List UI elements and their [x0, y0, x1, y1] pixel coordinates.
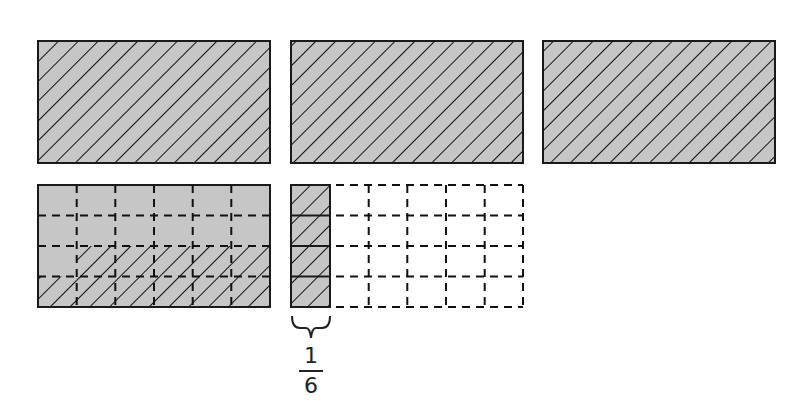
fraction-diagram — [0, 0, 802, 418]
fraction-numerator: 1 — [299, 345, 323, 367]
fraction-denominator: 6 — [299, 375, 323, 397]
dashed-grid — [336, 185, 523, 307]
one-sixth-strip — [291, 185, 330, 307]
grid-rectangle — [38, 185, 270, 307]
fraction-label: 1 6 — [299, 345, 323, 397]
brace-icon — [292, 316, 330, 338]
whole-rectangle-3 — [543, 41, 775, 163]
fraction-bar — [299, 370, 323, 372]
whole-rectangle-1 — [38, 41, 270, 163]
whole-rectangle-2 — [291, 41, 523, 163]
